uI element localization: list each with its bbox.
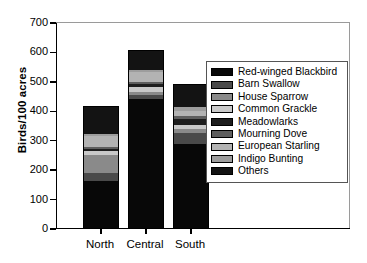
bar-segment — [174, 133, 208, 144]
bar-segment — [129, 99, 163, 228]
bar-segment — [84, 134, 118, 136]
legend-item: Indigo Bunting — [211, 153, 342, 165]
legend-item: Meadowlarks — [211, 116, 342, 128]
legend-label: Mourning Dove — [238, 129, 307, 139]
legend-label: Others — [238, 166, 269, 176]
legend-swatch — [211, 81, 233, 89]
bar-segment — [129, 95, 163, 99]
legend-item: European Starling — [211, 140, 342, 152]
bar-segment — [174, 144, 208, 228]
x-tick-mark — [145, 229, 147, 234]
bar-segment — [129, 87, 163, 92]
bar-segment — [174, 107, 208, 111]
bar-segment — [129, 84, 163, 87]
legend-swatch — [211, 93, 233, 101]
bar-segment — [174, 119, 208, 125]
bar-central — [129, 51, 163, 228]
legend-item: Common Grackle — [211, 103, 342, 115]
y-tick-label: 700 — [4, 17, 48, 28]
legend-item: Barn Swallow — [211, 78, 342, 90]
bar-segment — [84, 155, 118, 173]
chart-legend: Red-winged BlackbirdBarn SwallowHouse Sp… — [206, 61, 348, 183]
bar-segment — [84, 147, 118, 149]
legend-label: Indigo Bunting — [238, 154, 303, 164]
bar-segment — [129, 82, 163, 84]
bar-segment — [84, 107, 118, 134]
legend-label: European Starling — [238, 141, 320, 151]
legend-label: Meadowlarks — [238, 117, 298, 127]
bar-south — [174, 85, 208, 228]
bar-segment — [84, 173, 118, 181]
bar-segment — [174, 116, 208, 119]
y-tick-label: 500 — [4, 76, 48, 87]
bar-segment — [129, 70, 163, 71]
legend-swatch — [211, 105, 233, 113]
legend-swatch — [211, 155, 233, 163]
bar-segment — [84, 149, 118, 151]
y-tick-label: 200 — [4, 164, 48, 175]
legend-label: Red-winged Blackbird — [238, 67, 337, 77]
legend-swatch — [211, 68, 233, 76]
legend-swatch — [211, 167, 233, 175]
y-tick-label: 300 — [4, 135, 48, 146]
y-tick-label: 600 — [4, 46, 48, 57]
y-tick-label: 100 — [4, 194, 48, 205]
x-axis-label-south: South — [150, 238, 230, 250]
legend-item: Mourning Dove — [211, 128, 342, 140]
y-tick-label: 0 — [4, 223, 48, 234]
legend-label: Barn Swallow — [238, 79, 300, 89]
y-tick-label: 400 — [4, 105, 48, 116]
legend-swatch — [211, 143, 233, 151]
legend-swatch — [211, 130, 233, 138]
bar-segment — [174, 85, 208, 107]
bar-segment — [129, 72, 163, 82]
legend-swatch — [211, 118, 233, 126]
legend-item: Red-winged Blackbird — [211, 66, 342, 78]
x-tick-mark — [100, 229, 102, 234]
bar-segment — [174, 111, 208, 116]
legend-item: Others — [211, 165, 342, 177]
bar-north — [84, 107, 118, 228]
bar-segment — [174, 125, 208, 129]
x-tick-mark — [190, 229, 192, 234]
bar-segment — [174, 129, 208, 133]
bar-segment — [129, 51, 163, 71]
bar-segment — [84, 151, 118, 155]
bar-segment — [84, 136, 118, 146]
bar-segment — [84, 181, 118, 228]
legend-label: Common Grackle — [238, 104, 317, 114]
legend-label: House Sparrow — [238, 92, 308, 102]
legend-item: House Sparrow — [211, 91, 342, 103]
bar-segment — [129, 92, 163, 95]
stacked-bar-chart: Birds/100 acres 0100200300400500600700 N… — [0, 0, 367, 263]
